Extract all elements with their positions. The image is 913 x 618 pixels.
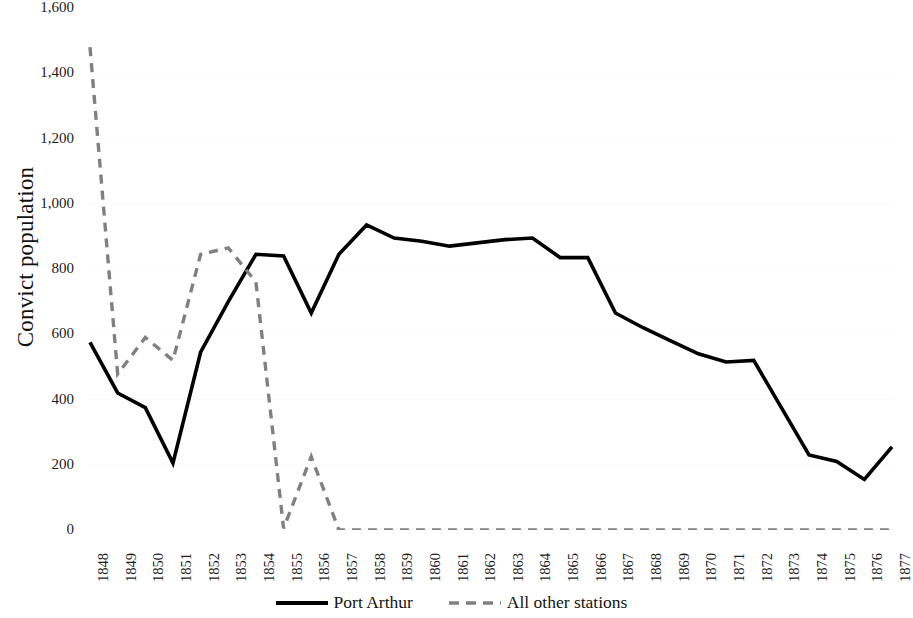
x-tick-label: 1850 [151,553,166,582]
x-tick-label: 1872 [760,553,775,582]
x-tick-label: 1866 [594,553,609,582]
x-tick-label: 1857 [345,553,360,582]
legend-item-port-arthur[interactable]: Port Arthur [274,592,413,613]
x-tick-label: 1876 [870,553,885,582]
x-tick-label: 1848 [96,553,111,582]
x-tick-label: 1869 [677,553,692,582]
x-tick-label: 1852 [207,553,222,582]
x-tick-label: 1863 [511,553,526,582]
x-tick-label: 1868 [649,553,664,582]
legend-label: All other stations [507,592,628,613]
x-tick-label: 1864 [538,553,553,582]
gridlines [88,8,894,530]
y-tick-label: 0 [4,522,74,537]
x-tick-label: 1877 [898,553,913,582]
x-tick-label: 1875 [843,553,858,582]
y-tick-label: 1,200 [4,131,74,146]
legend-label: Port Arthur [334,592,413,613]
x-tick-label: 1856 [317,553,332,582]
legend-swatch-dashed-line-icon [447,596,503,610]
y-tick-label: 1,000 [4,196,74,211]
y-tick-label: 200 [4,457,74,472]
y-tick-label: 1,600 [4,0,74,15]
y-tick-label: 800 [4,261,74,276]
data-series-layer [90,47,892,530]
series-line-all-other-stations [90,47,892,530]
series-line-port-arthur [90,225,892,479]
x-tick-label: 1851 [179,553,194,582]
x-tick-label: 1874 [815,553,830,582]
x-tick-label: 1871 [732,553,747,582]
x-tick-label: 1873 [787,553,802,582]
x-tick-label: 1859 [400,553,415,582]
x-axis-tick-labels: 1848184918501851185218531854185518561857… [88,530,894,588]
x-tick-label: 1855 [290,553,305,582]
y-tick-label: 400 [4,392,74,407]
y-tick-label: 1,400 [4,65,74,80]
x-tick-label: 1853 [234,553,249,582]
y-axis-tick-labels: 02004006008001,0001,2001,4001,600 [0,0,74,618]
x-tick-label: 1865 [566,553,581,582]
x-tick-label: 1849 [124,553,139,582]
x-tick-label: 1870 [704,553,719,582]
legend-swatch-solid-line-icon [274,596,330,610]
x-tick-label: 1862 [483,553,498,582]
x-tick-label: 1860 [428,553,443,582]
plot-svg [88,8,894,530]
x-tick-label: 1854 [262,553,277,582]
y-tick-label: 600 [4,326,74,341]
plot-area [88,8,894,530]
x-tick-label: 1867 [621,553,636,582]
x-tick-label: 1861 [456,553,471,582]
legend-item-all-other-stations[interactable]: All other stations [447,592,628,613]
chart-legend: Port ArthurAll other stations [0,592,901,613]
x-tick-label: 1858 [373,553,388,582]
